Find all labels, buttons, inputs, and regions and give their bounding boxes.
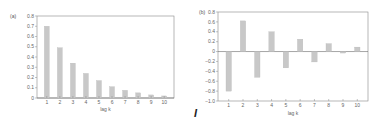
x-tick-label: 4 <box>85 99 88 105</box>
bar-lag-4 <box>83 73 88 98</box>
y-tick-label: 0.4 <box>27 54 34 60</box>
chart-panel-b: −1.0−0.8−0.6−0.4−0.200.20.40.60.81234567… <box>199 9 368 117</box>
x-tick-label: 3 <box>71 99 74 105</box>
bar-lag-9 <box>340 52 345 53</box>
x-tick-label: 1 <box>45 99 48 105</box>
bar-lag-5 <box>283 52 288 68</box>
x-tick-label: 10 <box>355 102 361 108</box>
x-tick-label: 7 <box>313 102 316 108</box>
bar-lag-2 <box>57 48 62 98</box>
bar-lag-4 <box>269 32 274 52</box>
x-tick-label: 8 <box>137 99 140 105</box>
y-tick-label: 0.1 <box>27 84 34 90</box>
x-tick-label: 10 <box>161 99 167 105</box>
bar-lag-2 <box>240 21 245 52</box>
y-tick-label: 0 <box>31 95 34 101</box>
x-tick-label: 2 <box>242 102 245 108</box>
bar-lag-7 <box>312 52 317 62</box>
bar-lag-3 <box>70 63 75 98</box>
x-tick-label: 3 <box>256 102 259 108</box>
chart-panel-a: 00.10.20.30.40.50.60.70.812345678910lag … <box>10 13 174 113</box>
y-tick-label: 0.4 <box>208 28 215 34</box>
y-tick-label: 0.3 <box>27 64 34 70</box>
y-tick-label: 0.8 <box>27 13 34 19</box>
x-axis-label: lag k <box>288 110 299 116</box>
x-tick-label: 9 <box>342 102 345 108</box>
x-tick-label: 8 <box>327 102 330 108</box>
x-tick-label: 5 <box>284 102 287 108</box>
x-tick-label: 5 <box>98 99 101 105</box>
y-tick-label: −1.0 <box>205 98 215 104</box>
panel-label: (b) <box>199 9 205 15</box>
bar-lag-1 <box>44 26 49 98</box>
x-tick-label: 7 <box>124 99 127 105</box>
bar-lag-3 <box>255 52 260 78</box>
y-tick-label: 0.6 <box>27 33 34 39</box>
x-axis-label: lag k <box>100 106 111 112</box>
x-tick-label: 9 <box>150 99 153 105</box>
bar-lag-10 <box>355 47 360 51</box>
y-tick-label: −0.4 <box>205 68 215 74</box>
x-tick-label: 6 <box>111 99 114 105</box>
y-tick-label: 0.2 <box>27 74 34 80</box>
x-tick-label: 2 <box>58 99 61 105</box>
bar-lag-8 <box>326 44 331 52</box>
y-tick-label: −0.2 <box>205 58 215 64</box>
y-tick-label: −0.8 <box>205 88 215 94</box>
bar-lag-5 <box>96 81 101 98</box>
x-tick-label: 4 <box>270 102 273 108</box>
y-tick-label: 0.2 <box>208 38 215 44</box>
y-tick-label: 0.7 <box>27 23 34 29</box>
y-tick-label: 0.6 <box>208 19 215 25</box>
x-tick-label: 1 <box>227 102 230 108</box>
y-tick-label: 0.5 <box>27 43 34 49</box>
figure-canvas: 00.10.20.30.40.50.60.70.812345678910lag … <box>0 0 372 127</box>
x-tick-label: 6 <box>299 102 302 108</box>
panel-label: (a) <box>10 13 16 19</box>
bar-lag-1 <box>226 52 231 92</box>
y-tick-label: 0.8 <box>208 9 215 15</box>
text-cursor-mark: I <box>194 107 198 119</box>
y-tick-label: −0.6 <box>205 78 215 84</box>
y-tick-label: 0 <box>212 48 215 54</box>
bar-lag-6 <box>297 39 302 51</box>
